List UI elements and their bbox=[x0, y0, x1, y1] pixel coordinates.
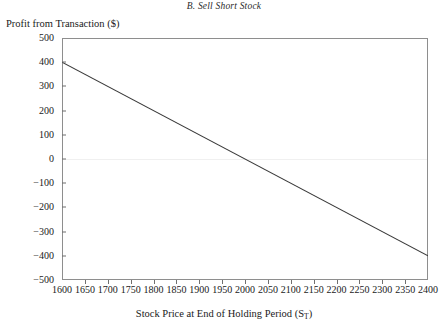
x-axis-label-subscript: T bbox=[304, 312, 309, 321]
series-line-short-stock bbox=[62, 38, 428, 280]
x-tick-mark bbox=[245, 280, 246, 284]
y-tick-mark bbox=[62, 62, 66, 63]
y-tick-mark bbox=[62, 159, 66, 160]
x-tick-label: 2250 bbox=[349, 285, 369, 295]
y-tick-label: 500 bbox=[8, 33, 54, 43]
x-axis-label: Stock Price at End of Holding Period (ST… bbox=[0, 308, 448, 319]
y-tick-label: 300 bbox=[8, 81, 54, 91]
x-tick-mark bbox=[291, 280, 292, 284]
x-tick-label: 2200 bbox=[327, 285, 347, 295]
y-tick-label: 400 bbox=[8, 57, 54, 67]
x-tick-label: 1600 bbox=[52, 285, 72, 295]
y-tick-mark bbox=[62, 255, 66, 256]
x-tick-mark bbox=[199, 280, 200, 284]
x-tick-mark bbox=[382, 280, 383, 284]
y-tick-mark bbox=[62, 86, 66, 87]
y-tick-label: −100 bbox=[8, 178, 54, 188]
y-tick-mark bbox=[62, 231, 66, 232]
x-tick-mark bbox=[337, 280, 338, 284]
y-tick-label: −500 bbox=[8, 275, 54, 285]
x-tick-label: 1750 bbox=[121, 285, 141, 295]
x-tick-mark bbox=[314, 280, 315, 284]
x-tick-mark bbox=[108, 280, 109, 284]
chart-title: B. Sell Short Stock bbox=[0, 1, 448, 11]
y-tick-mark bbox=[62, 207, 66, 208]
x-tick-mark bbox=[154, 280, 155, 284]
y-tick-label: 200 bbox=[8, 106, 54, 116]
y-tick-label: −400 bbox=[8, 251, 54, 261]
x-tick-label: 1800 bbox=[144, 285, 164, 295]
x-tick-label: 1700 bbox=[98, 285, 118, 295]
x-tick-mark bbox=[222, 280, 223, 284]
x-tick-label: 2350 bbox=[395, 285, 415, 295]
x-tick-label: 1900 bbox=[189, 285, 209, 295]
x-tick-mark bbox=[268, 280, 269, 284]
x-tick-label: 2300 bbox=[372, 285, 392, 295]
x-tick-mark bbox=[176, 280, 177, 284]
x-axis-label-text: Stock Price at End of Holding Period (S bbox=[136, 308, 304, 319]
x-tick-label: 2150 bbox=[304, 285, 324, 295]
y-axis-label: Profit from Transaction ($) bbox=[6, 18, 119, 29]
y-tick-mark bbox=[62, 110, 66, 111]
x-tick-mark bbox=[405, 280, 406, 284]
y-tick-mark bbox=[62, 183, 66, 184]
y-tick-label: 100 bbox=[8, 130, 54, 140]
x-tick-label: 2050 bbox=[258, 285, 278, 295]
x-tick-label: 1950 bbox=[212, 285, 232, 295]
x-tick-mark bbox=[85, 280, 86, 284]
x-tick-label: 2000 bbox=[235, 285, 255, 295]
x-tick-label: 1650 bbox=[75, 285, 95, 295]
x-axis-label-suffix: ) bbox=[309, 308, 313, 319]
y-tick-label: 0 bbox=[8, 154, 54, 164]
y-tick-label: −200 bbox=[8, 202, 54, 212]
x-tick-label: 2400 bbox=[418, 285, 438, 295]
chart-figure: B. Sell Short Stock Profit from Transact… bbox=[0, 0, 448, 328]
y-tick-mark bbox=[62, 134, 66, 135]
x-tick-label: 1850 bbox=[166, 285, 186, 295]
x-tick-label: 2100 bbox=[281, 285, 301, 295]
x-tick-mark bbox=[359, 280, 360, 284]
x-tick-mark bbox=[131, 280, 132, 284]
y-tick-label: −300 bbox=[8, 227, 54, 237]
